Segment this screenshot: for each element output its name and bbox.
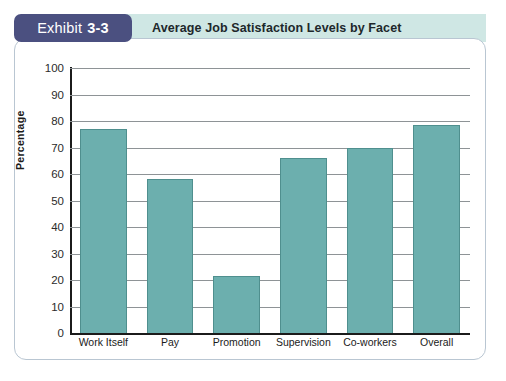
- exhibit-tab-word: Exhibit: [37, 20, 82, 36]
- x-label: Promotion: [213, 336, 261, 348]
- y-tick-label: 50: [34, 195, 64, 207]
- y-tick-label: 40: [34, 221, 64, 233]
- x-axis-labels: Work ItselfPayPromotionSupervisionCo-wor…: [70, 336, 470, 356]
- y-tick-label: 90: [34, 89, 64, 101]
- bar-rect: [80, 129, 127, 333]
- y-tick-label: 30: [34, 248, 64, 260]
- bar-rect: [213, 276, 260, 333]
- bar-supervision: [280, 68, 327, 333]
- exhibit-title: Average Job Satisfaction Levels by Facet: [152, 21, 401, 35]
- bar-rect: [147, 179, 194, 333]
- x-label: Work Itself: [79, 336, 128, 348]
- bar-overall: [413, 68, 460, 333]
- y-tick-label: 20: [34, 274, 64, 286]
- y-tick-label: 70: [34, 142, 64, 154]
- exhibit-tab-number: 3-3: [87, 20, 109, 36]
- y-tick-label: 10: [34, 301, 64, 313]
- bar-pay: [147, 68, 194, 333]
- x-label: Supervision: [276, 336, 331, 348]
- y-tick-label: 100: [34, 62, 64, 74]
- bar-rect: [280, 158, 327, 333]
- bar-promotion: [213, 68, 260, 333]
- y-axis-title: Percentage: [14, 110, 26, 170]
- y-tick-label: 80: [34, 115, 64, 127]
- bar-co-workers: [347, 68, 394, 333]
- y-tick-label: 0: [34, 327, 64, 339]
- x-label: Pay: [161, 336, 179, 348]
- bars-layer: [70, 68, 470, 333]
- bar-rect: [413, 125, 460, 333]
- bar-work-itself: [80, 68, 127, 333]
- exhibit-tab: Exhibit 3-3: [14, 14, 132, 42]
- y-axis-ticks: 1009080706050403020100: [30, 68, 64, 333]
- x-label: Co-workers: [343, 336, 397, 348]
- x-label: Overall: [420, 336, 453, 348]
- gridline: [70, 333, 470, 335]
- y-tick-label: 60: [34, 168, 64, 180]
- plot-area: [70, 68, 470, 333]
- bar-rect: [347, 148, 394, 334]
